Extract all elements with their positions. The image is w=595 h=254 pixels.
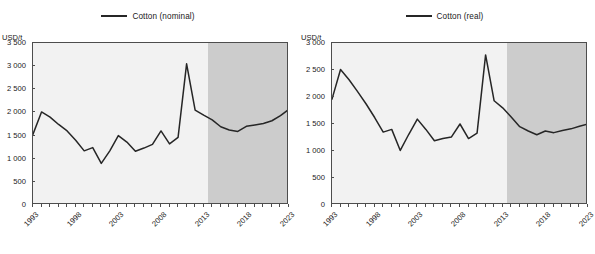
y-tick-mark [32,158,35,159]
x-tick-mark [237,204,238,207]
x-tick-mark [391,204,392,207]
x-tick-mark [245,204,246,207]
plot-area-real [331,42,587,204]
x-tick-mark [254,204,255,207]
x-tick-mark [134,204,135,207]
x-tick-mark [117,204,118,207]
x-tick-mark [348,204,349,207]
x-tick-mark [527,204,528,207]
x-tick-label: 2023 [274,210,296,232]
x-tick-mark [553,204,554,207]
y-tick-mark [331,177,334,178]
x-tick-mark [66,204,67,207]
legend-line-swatch-icon [101,15,127,17]
x-tick-mark [262,204,263,207]
x-tick-mark [399,204,400,207]
x-tick-mark [100,204,101,207]
x-tick-mark [41,204,42,207]
x-tick-mark [374,204,375,207]
x-tick-label: 1993 [18,210,40,232]
plot-area-nominal [32,42,288,204]
x-tick-label: 2023 [573,210,595,232]
y-tick-mark [331,150,334,151]
x-tick-mark [160,204,161,207]
x-tick-mark [32,204,33,207]
x-tick-mark [58,204,59,207]
x-tick-mark [485,204,486,207]
y-tick-label: 2 500 [296,65,325,74]
y-tick-label: 3 000 [296,38,325,47]
chart-panel-nominal: Cotton (nominal) USD/t 05001 0001 5002 0… [0,0,296,254]
x-tick-mark [476,204,477,207]
x-tick-mark [357,204,358,207]
x-tick-mark [544,204,545,207]
x-tick-label: 2008 [445,210,467,232]
legend-label-nominal: Cotton (nominal) [132,12,194,21]
y-tick-mark [331,123,334,124]
x-tick-mark [519,204,520,207]
legend-nominal: Cotton (nominal) [0,8,296,24]
x-tick-mark [468,204,469,207]
y-tick-mark [32,181,35,182]
x-tick-mark [126,204,127,207]
x-tick-label: 1993 [317,210,339,232]
x-tick-mark [570,204,571,207]
x-tick-mark [502,204,503,207]
x-tick-mark [271,204,272,207]
y-tick-label: 2 000 [296,92,325,101]
x-tick-mark [433,204,434,207]
x-tick-mark [450,204,451,207]
x-tick-mark [177,204,178,207]
x-tick-mark [578,204,579,207]
x-tick-mark [151,204,152,207]
x-tick-mark [228,204,229,207]
x-tick-mark [288,204,289,207]
y-tick-label: 1 500 [296,119,325,128]
x-tick-mark [536,204,537,207]
x-tick-label: 2018 [531,210,553,232]
x-tick-mark [408,204,409,207]
x-tick-mark [561,204,562,207]
legend-label-real: Cotton (real) [437,12,484,21]
y-tick-mark [32,111,35,112]
y-tick-label: 0 [296,200,325,209]
y-tick-mark [331,69,334,70]
legend-line-swatch-icon [406,15,432,17]
x-tick-label: 1998 [360,210,382,232]
x-tick-label: 2018 [232,210,254,232]
y-tick-label: 3 000 [0,61,26,70]
y-tick-label: 500 [0,176,26,185]
x-tick-mark [109,204,110,207]
x-tick-label: 2003 [403,210,425,232]
x-tick-mark [83,204,84,207]
x-tick-mark [211,204,212,207]
chart-panel-real: Cotton (real) USD/t 05001 0001 5002 0002… [296,0,593,254]
x-tick-mark [279,204,280,207]
x-tick-mark [416,204,417,207]
x-tick-mark [75,204,76,207]
x-tick-mark [365,204,366,207]
y-tick-label: 3 500 [0,38,26,47]
y-tick-mark [32,65,35,66]
x-tick-mark [340,204,341,207]
y-tick-label: 500 [296,173,325,182]
x-tick-mark [331,204,332,207]
x-tick-mark [442,204,443,207]
x-tick-mark [493,204,494,207]
y-tick-label: 2 000 [0,107,26,116]
x-tick-mark [425,204,426,207]
x-tick-mark [186,204,187,207]
y-tick-mark [331,96,334,97]
series-line-cotton-real [332,55,587,151]
y-tick-mark [32,88,35,89]
x-tick-mark [587,204,588,207]
x-tick-label: 2003 [104,210,126,232]
x-tick-label: 2008 [146,210,168,232]
x-tick-mark [169,204,170,207]
y-tick-mark [32,135,35,136]
x-tick-mark [92,204,93,207]
y-tick-label: 1 500 [0,130,26,139]
x-tick-mark [382,204,383,207]
y-tick-label: 2 500 [0,84,26,93]
